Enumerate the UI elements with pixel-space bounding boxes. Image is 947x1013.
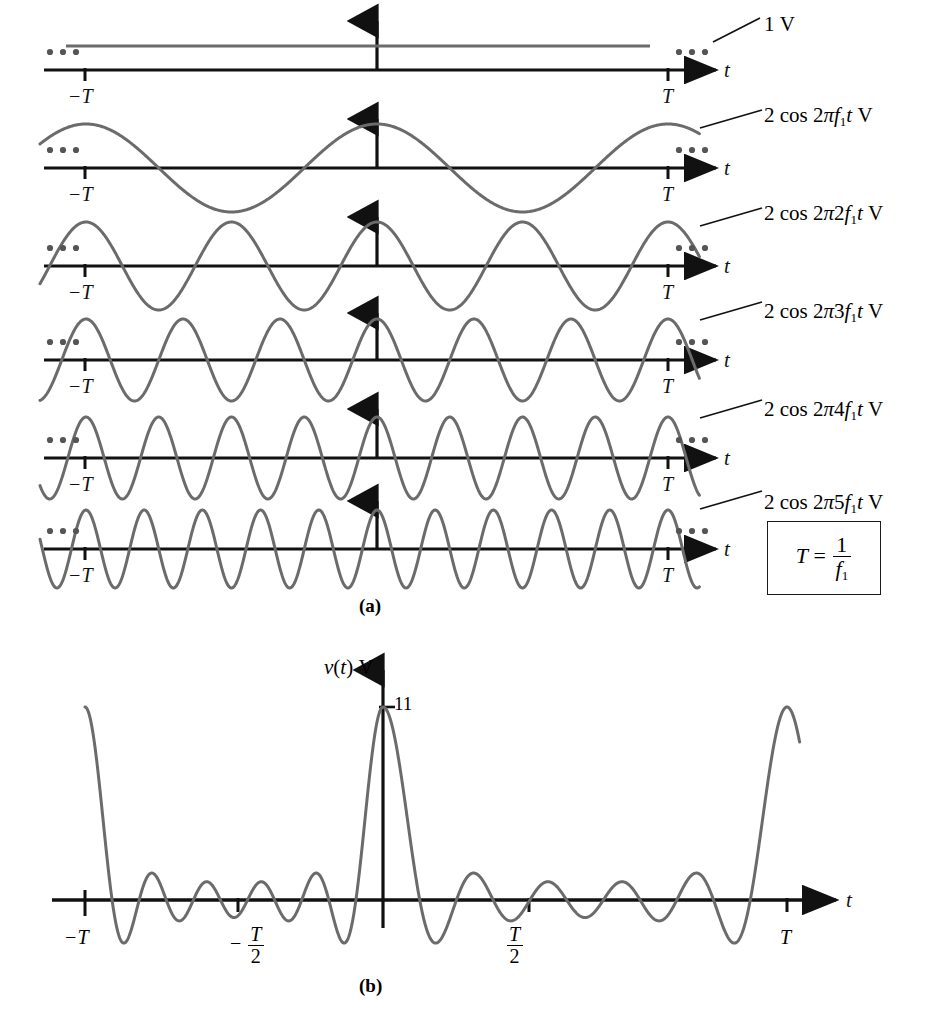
ellipsis-right-dot-2-row1 xyxy=(702,147,708,153)
ellipsis-right-dot-2-row3 xyxy=(702,339,708,345)
ellipsis-left-dot-2-row2 xyxy=(73,245,79,251)
panel-a-row-4: t−TT xyxy=(40,400,762,499)
panel-a-row-3: t−TT xyxy=(40,302,762,401)
panel-b-waveform-sum xyxy=(85,707,800,943)
panel-b-tick-minus-T-over-2: − T2 xyxy=(230,924,265,967)
ellipsis-right-dot-0-row4 xyxy=(676,437,682,443)
ellipsis-left-dot-0-row0 xyxy=(47,49,53,55)
panel-b-tick-T-over-2: T2 xyxy=(505,924,524,967)
time-axis-label-1: t xyxy=(724,156,731,180)
time-axis-label-3: t xyxy=(724,348,731,372)
ellipsis-left-dot-2-row3 xyxy=(73,339,79,345)
waveform-label-dc: 1 V xyxy=(764,14,795,35)
leader-line-0 xyxy=(713,18,760,42)
ellipsis-left-dot-1-row4 xyxy=(60,437,66,443)
time-axis-label-5: t xyxy=(724,537,731,561)
ellipsis-right-dot-1-row1 xyxy=(689,147,695,153)
panel-b-peak-label: 11 xyxy=(394,693,412,715)
figure-fourier-series: t−TTt−TTt−TTt−TTt−TTt−TT 1 V 2 cos 2πf1t… xyxy=(0,0,947,1013)
ellipsis-left-dot-1-row1 xyxy=(60,147,66,153)
waveform-label-h4: 2 cos 2π4f1t V xyxy=(764,399,883,422)
panel-b-plot: t xyxy=(0,650,947,1013)
panel-b-y-axis-label: v(t) V xyxy=(324,655,374,680)
panel-b-tick-T: T xyxy=(780,926,791,949)
tick-label-T-row4: T xyxy=(662,473,675,495)
leader-line-2 xyxy=(700,208,762,226)
ellipsis-left-dot-0-row5 xyxy=(47,528,53,534)
time-axis-label-2: t xyxy=(724,254,731,278)
ellipsis-right-dot-2-row0 xyxy=(702,49,708,55)
tick-label-minus-T-row3: −T xyxy=(68,375,94,397)
ellipsis-left-dot-2-row1 xyxy=(73,147,79,153)
panel-b-time-axis-label: t xyxy=(846,888,853,912)
panel-a-label: (a) xyxy=(359,595,381,617)
tick-label-minus-T-row4: −T xyxy=(68,473,94,495)
ellipsis-left-dot-2-row0 xyxy=(73,49,79,55)
ellipsis-right-dot-1-row5 xyxy=(689,528,695,534)
time-axis-label-4: t xyxy=(724,446,731,470)
ellipsis-right-dot-2-row2 xyxy=(702,245,708,251)
ellipsis-right-dot-1-row0 xyxy=(689,49,695,55)
time-axis-label-0: t xyxy=(724,58,731,82)
leader-line-1 xyxy=(700,110,762,128)
ellipsis-left-dot-1-row5 xyxy=(60,528,66,534)
ellipsis-left-dot-0-row2 xyxy=(47,245,53,251)
ellipsis-left-dot-2-row4 xyxy=(73,437,79,443)
ellipsis-left-dot-0-row4 xyxy=(47,437,53,443)
panel-a-row-1: t−TT xyxy=(40,110,762,212)
tick-label-T-row0: T xyxy=(662,85,675,107)
ellipsis-right-dot-1-row3 xyxy=(689,339,695,345)
tick-label-T-row3: T xyxy=(662,375,675,397)
tick-label-minus-T-row1: −T xyxy=(68,183,94,205)
waveform-label-h3: 2 cos 2π3f1t V xyxy=(764,301,883,324)
ellipsis-right-dot-0-row2 xyxy=(676,245,682,251)
ellipsis-right-dot-0-row0 xyxy=(676,49,682,55)
tick-label-T-row1: T xyxy=(662,183,675,205)
ellipsis-right-dot-1-row4 xyxy=(689,437,695,443)
leader-line-3 xyxy=(700,302,762,320)
ellipsis-right-dot-2-row4 xyxy=(702,437,708,443)
ellipsis-left-dot-1-row2 xyxy=(60,245,66,251)
ellipsis-left-dot-0-row1 xyxy=(47,147,53,153)
panel-a-row-2: t−TT xyxy=(40,208,762,310)
waveform-label-h2: 2 cos 2π2f1t V xyxy=(764,203,883,226)
ellipsis-right-dot-0-row5 xyxy=(676,528,682,534)
tick-label-T-row5: T xyxy=(662,564,675,586)
tick-label-minus-T-row2: −T xyxy=(68,281,94,303)
panel-b-content: t xyxy=(52,670,853,943)
ellipsis-left-dot-0-row3 xyxy=(47,339,53,345)
tick-label-T-row2: T xyxy=(662,281,675,303)
ellipsis-right-dot-1-row2 xyxy=(689,245,695,251)
panel-a-row-5: t−TT xyxy=(40,491,762,588)
ellipsis-left-dot-1-row3 xyxy=(60,339,66,345)
leader-line-5 xyxy=(700,491,762,509)
ellipsis-right-dot-0-row3 xyxy=(676,339,682,345)
leader-line-4 xyxy=(700,400,762,418)
ellipsis-right-dot-2-row5 xyxy=(702,528,708,534)
ellipsis-left-dot-2-row5 xyxy=(73,528,79,534)
ellipsis-left-dot-1-row0 xyxy=(60,49,66,55)
panel-b-tick-minus-T: −T xyxy=(64,926,89,949)
tick-label-minus-T-row5: −T xyxy=(68,564,94,586)
panel-b-label: (b) xyxy=(359,975,382,997)
ellipsis-right-dot-0-row1 xyxy=(676,147,682,153)
boxed-equation-period: T = 1 f1 xyxy=(767,521,881,595)
waveform-label-h1: 2 cos 2πf1t V xyxy=(764,105,873,128)
waveform-label-h5: 2 cos 2π5f1t V xyxy=(764,492,883,515)
tick-label-minus-T-row0: −T xyxy=(68,85,94,107)
panel-a-row-0: t−TT xyxy=(44,18,760,107)
